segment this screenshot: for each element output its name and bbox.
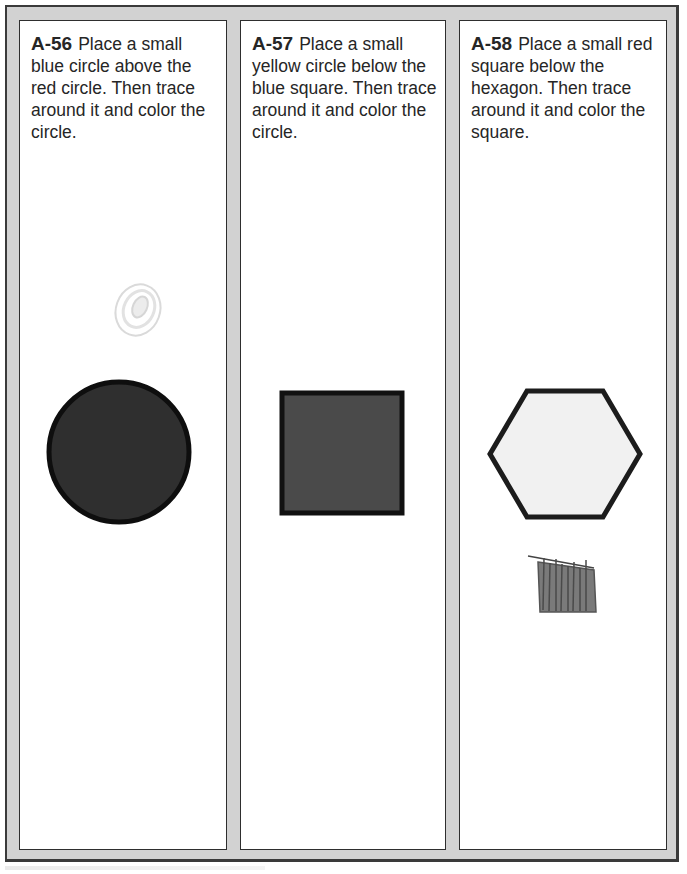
hexagon-printed (485, 387, 645, 521)
activity-id: A-56 (31, 33, 72, 54)
panel-a-58: A-58Place a small red square below the h… (459, 20, 667, 850)
panel-a-57: A-57Place a small yellow circle below th… (240, 20, 446, 850)
panel-a-56: A-56Place a small blue circle above the … (19, 20, 227, 850)
drawn-blue-circle-scribble (108, 279, 168, 341)
blue-square-printed (279, 390, 405, 516)
instruction-a-57: A-57Place a small yellow circle below th… (252, 33, 439, 143)
activity-id: A-58 (471, 33, 512, 54)
footer-faint-print (5, 866, 265, 870)
red-circle-printed (46, 379, 192, 525)
instruction-a-58: A-58Place a small red square below the h… (471, 33, 660, 143)
drawn-red-square-scribble (526, 554, 602, 614)
activity-id: A-57 (252, 33, 293, 54)
instruction-a-56: A-56Place a small blue circle above the … (31, 33, 220, 143)
